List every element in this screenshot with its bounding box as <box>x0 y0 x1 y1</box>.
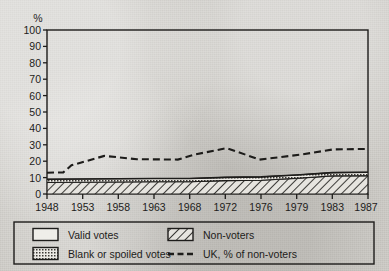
y-tick-label-70: 70 <box>29 73 41 85</box>
chart-figure: % 0 10 20 30 40 50 60 70 <box>0 0 389 271</box>
x-tick-label-1958: 1958 <box>107 201 131 213</box>
x-tick-label-1972: 1972 <box>214 201 238 213</box>
legend-swatch-stipple-box <box>33 248 58 260</box>
y-axis-unit-label: % <box>33 12 42 24</box>
y-tick-label-50: 50 <box>29 106 41 118</box>
x-axis: 1948 1953 1958 1963 1968 1972 1976 1979 … <box>35 194 378 213</box>
legend-swatch-white-box <box>33 229 58 241</box>
legend-item-uk-percent-non-voters: UK, % of non-voters <box>168 248 297 260</box>
legend-item-non-voters: Non-voters <box>168 229 254 242</box>
plot-border <box>47 30 368 194</box>
plot-frame <box>47 30 368 194</box>
x-tick-label-1968: 1968 <box>178 201 202 213</box>
legend-swatch-hatch-box <box>168 229 193 241</box>
x-tick-label-1976: 1976 <box>249 201 273 213</box>
chart-legend: Valid votes Non-voters Blank or spoiled … <box>14 222 374 264</box>
y-tick-label-100: 100 <box>23 24 41 36</box>
legend-label-valid-votes: Valid votes <box>68 229 119 241</box>
series-line-uk-percent-non-voters <box>47 148 368 173</box>
legend-item-blank-or-spoiled-votes: Blank or spoiled votes <box>33 248 171 261</box>
y-tick-label-0: 0 <box>35 188 41 200</box>
x-tick-label-1987: 1987 <box>354 201 378 213</box>
legend-label-uk-percent-non-voters: UK, % of non-voters <box>203 248 297 260</box>
x-axis-ticks <box>47 194 368 199</box>
chart-svg: % 0 10 20 30 40 50 60 70 <box>0 0 389 271</box>
x-tick-label-1979: 1979 <box>285 201 309 213</box>
y-tick-label-90: 90 <box>29 40 41 52</box>
y-tick-label-20: 20 <box>29 155 41 167</box>
y-tick-label-60: 60 <box>29 90 41 102</box>
y-axis: % 0 10 20 30 40 50 60 70 <box>23 12 47 200</box>
y-tick-label-80: 80 <box>29 57 41 69</box>
x-tick-label-1953: 1953 <box>71 201 95 213</box>
x-tick-label-1963: 1963 <box>142 201 166 213</box>
y-tick-label-40: 40 <box>29 122 41 134</box>
legend-label-non-voters: Non-voters <box>203 229 254 241</box>
legend-label-blank-or-spoiled-votes: Blank or spoiled votes <box>68 248 171 260</box>
y-tick-label-30: 30 <box>29 139 41 151</box>
x-tick-label-1948: 1948 <box>35 201 59 213</box>
plot-area <box>47 148 368 194</box>
x-tick-label-1983: 1983 <box>321 201 345 213</box>
legend-item-valid-votes: Valid votes <box>33 229 119 242</box>
y-tick-label-10: 10 <box>29 172 41 184</box>
